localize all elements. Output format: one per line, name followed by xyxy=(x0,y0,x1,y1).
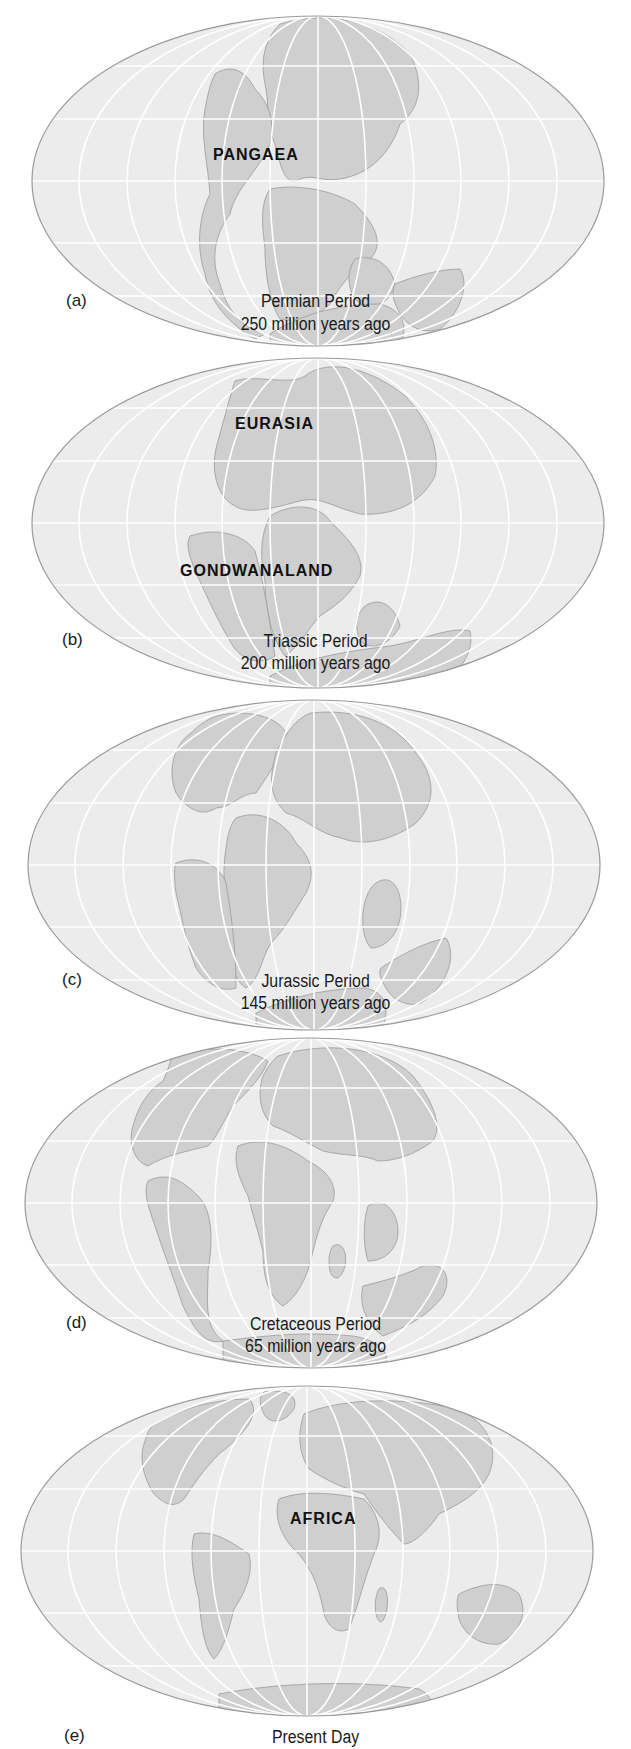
period-name: Cretaceous Period xyxy=(38,1313,593,1336)
period-name: Triassic Period xyxy=(38,630,593,653)
panel-triassic: EURASIA GONDWANALAND (b) Triassic Period… xyxy=(0,340,631,680)
panel-cretaceous: (d) Cretaceous Period 65 million years a… xyxy=(0,1020,631,1360)
period-age: 250 million years ago xyxy=(38,313,593,336)
map-label-pangaea: PANGAEA xyxy=(213,146,299,163)
globe-map-present-day: AFRICA xyxy=(19,1384,595,1718)
period-name: Present Day xyxy=(38,1726,593,1749)
map-label-africa: AFRICA xyxy=(290,1510,356,1527)
panel-permian: PANGAEA (a) Permian Period 250 million y… xyxy=(0,0,631,340)
period-age: 145 million years ago xyxy=(38,992,593,1015)
panel-present-day: AFRICA (e) Present Day xyxy=(0,1360,631,1708)
period-age: 65 million years ago xyxy=(38,1335,593,1358)
map-label-gondwanaland: GONDWANALAND xyxy=(180,562,333,579)
period-name: Jurassic Period xyxy=(38,970,593,993)
period-age: 200 million years ago xyxy=(38,652,593,675)
panel-jurassic: (c) Jurassic Period 145 million years ag… xyxy=(0,680,631,1020)
map-label-eurasia: EURASIA xyxy=(235,415,314,432)
period-name: Permian Period xyxy=(38,290,593,313)
